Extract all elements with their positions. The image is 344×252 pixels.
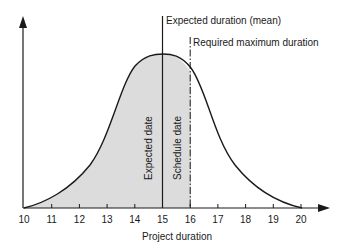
svg-text:13: 13: [102, 214, 114, 225]
svg-text:20: 20: [295, 214, 307, 225]
schedule-date-label: Schedule date: [172, 116, 183, 180]
chart-canvas: 10 11 12 13 14 15 16 17 18 19 20 Project…: [0, 0, 344, 252]
svg-text:11: 11: [47, 214, 58, 225]
required-max-label: Required maximum duration: [193, 37, 319, 48]
svg-text:14: 14: [129, 214, 141, 225]
x-axis-arrow-icon: [318, 204, 330, 212]
svg-text:18: 18: [240, 214, 252, 225]
svg-text:15: 15: [157, 214, 169, 225]
x-axis-label: Project duration: [142, 231, 212, 242]
svg-text:17: 17: [212, 214, 224, 225]
expected-date-label: Expected date: [143, 116, 154, 180]
svg-text:19: 19: [268, 214, 280, 225]
svg-text:10: 10: [18, 214, 30, 225]
x-tick-labels: 10 11 12 13 14 15 16 17 18 19 20: [18, 214, 307, 225]
svg-text:16: 16: [185, 214, 197, 225]
y-axis-arrow-icon: [19, 16, 27, 28]
svg-text:12: 12: [74, 214, 86, 225]
expected-duration-label: Expected duration (mean): [166, 15, 281, 26]
